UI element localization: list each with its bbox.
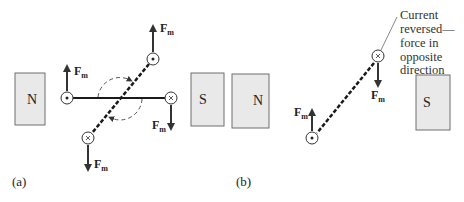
- panel-a: N S Fm Fm Fm Fm (a): [12, 21, 224, 189]
- svg-text:Current: Current: [400, 8, 439, 22]
- panel-label-a: (a): [12, 174, 26, 189]
- force-label-top-a: Fm: [160, 21, 174, 37]
- rotated-loop-b: [317, 63, 374, 133]
- force-label-bottom-a: Fm: [94, 157, 108, 173]
- panel-b: N S Fm Fm Current reversed— force in opp…: [232, 8, 455, 189]
- north-magnet-b: [232, 74, 269, 128]
- south-label-a: S: [199, 92, 207, 107]
- motor-diagram: N S Fm Fm Fm Fm (a) N: [0, 0, 464, 202]
- annotation-text: Current reversed— force in opposite dire…: [400, 8, 455, 77]
- force-label-right-a: Fm: [152, 118, 166, 134]
- south-magnet-a: [191, 73, 224, 126]
- svg-text:reversed—: reversed—: [400, 22, 455, 36]
- force-label-upper-b: Fm: [371, 88, 385, 104]
- north-label-a: N: [27, 92, 37, 107]
- svg-text:direction: direction: [400, 63, 445, 77]
- north-label-b: N: [253, 93, 263, 108]
- svg-text:opposite: opposite: [400, 50, 443, 64]
- south-label-b: S: [423, 95, 431, 110]
- south-magnet-b: [416, 75, 450, 130]
- force-label-lower-b: Fm: [294, 105, 308, 121]
- svg-text:force in: force in: [400, 36, 439, 50]
- force-label-left-a: Fm: [74, 64, 88, 80]
- rotation-arc-bottom-icon: [111, 99, 142, 120]
- panel-label-b: (b): [236, 174, 251, 189]
- annotation-leader: [381, 17, 397, 50]
